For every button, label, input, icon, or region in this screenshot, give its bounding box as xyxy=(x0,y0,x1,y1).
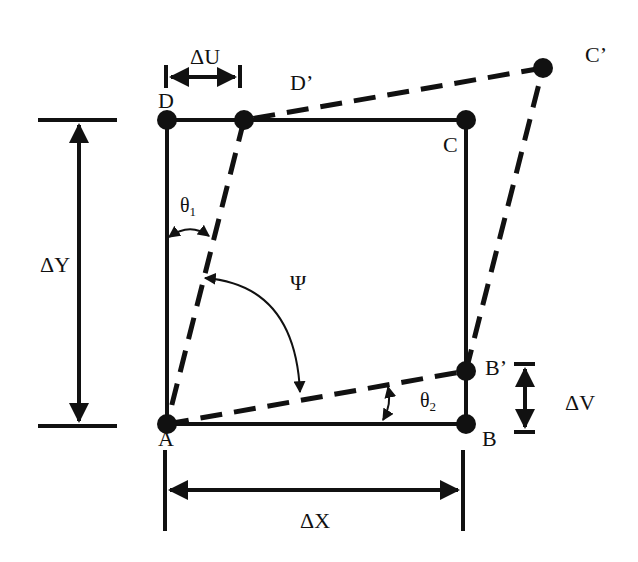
theta1-arc xyxy=(169,229,209,237)
point-c xyxy=(456,110,476,130)
label-psi: Ψ xyxy=(290,270,307,295)
shear-deformation-diagram: A B C D B’ C’ D’ ΔU ΔY ΔV ΔX θ1 Ψ θ2 xyxy=(0,0,638,562)
psi-arc xyxy=(205,278,300,392)
label-dv: ΔV xyxy=(565,390,595,415)
label-d: D xyxy=(158,88,174,113)
label-bprime: B’ xyxy=(485,355,507,380)
label-dx: ΔX xyxy=(300,508,330,533)
label-theta1: θ1 xyxy=(180,194,196,219)
label-du: ΔU xyxy=(190,44,220,69)
label-dprime: D’ xyxy=(290,70,313,95)
theta2-arc xyxy=(383,387,389,420)
point-dprime xyxy=(234,110,254,130)
label-b: B xyxy=(482,426,497,451)
edge-cprime-dprime xyxy=(244,68,543,120)
point-b xyxy=(456,414,476,434)
dimension-dv xyxy=(514,364,535,432)
label-theta2: θ2 xyxy=(420,389,436,414)
edge-bprime-cprime xyxy=(466,68,543,371)
label-c: C xyxy=(443,132,458,157)
point-cprime xyxy=(533,58,553,78)
point-d xyxy=(157,110,177,130)
label-cprime: C’ xyxy=(585,42,607,67)
label-dy: ΔY xyxy=(40,252,70,277)
label-a: A xyxy=(158,426,174,451)
point-bprime xyxy=(456,361,476,381)
edge-dprime-a xyxy=(167,120,244,424)
